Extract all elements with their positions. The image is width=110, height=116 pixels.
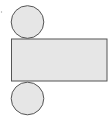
bottom-base-circle (11, 82, 44, 115)
lateral-surface-rectangle (12, 39, 108, 81)
cylinder-net-diagram (0, 0, 110, 116)
speck-mark (1, 11, 2, 12)
top-base-circle (11, 6, 44, 39)
diagram-svg (0, 0, 110, 116)
